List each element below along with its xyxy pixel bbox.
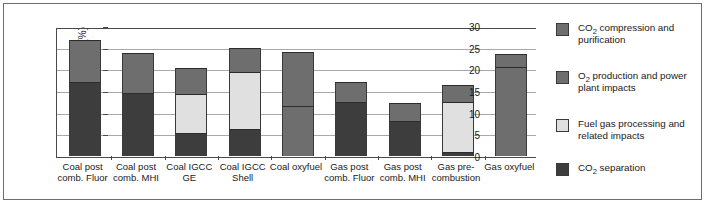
bar-segment[interactable] <box>229 72 261 130</box>
x-tick-mark <box>165 156 166 160</box>
x-axis-label-line: Shell <box>216 172 269 183</box>
x-axis-label: Gas postcomb. MHI <box>376 161 429 183</box>
x-axis-label-line: Gas pre- <box>429 161 482 172</box>
bar-column[interactable] <box>495 26 527 156</box>
x-tick-mark <box>271 156 272 160</box>
y-tick-label-5: 5 <box>458 131 480 141</box>
legend-swatch-co2-compression-and-purification <box>556 23 569 36</box>
y-tick-mark-30 <box>103 27 108 28</box>
x-tick-mark <box>378 156 379 160</box>
x-axis-label-line: comb. MHI <box>109 172 162 183</box>
x-axis-label-line: comb. MHI <box>376 172 429 183</box>
bar-segment[interactable] <box>495 54 527 67</box>
legend-label-o2-production-and-power-plant-impacts: O2 production and powerplant impacts <box>578 70 687 94</box>
x-tick-mark <box>218 156 219 160</box>
bar-segment[interactable] <box>69 40 101 82</box>
x-axis-label: Coal oxyfuel <box>269 161 322 172</box>
legend-label-line: CO2 separation <box>578 162 645 174</box>
legend-item-o2-production-and-power-plant-impacts[interactable]: O2 production and powerplant impacts <box>556 70 696 94</box>
legend-label-line: plant impacts <box>578 82 687 94</box>
plot-area-wrapper: Increase in fuel use (%) 051015202530 <box>56 28 536 158</box>
x-axis-labels: Coal postcomb. FluorCoal postcomb. MHICo… <box>56 161 538 193</box>
chart-screenshot: Increase in fuel use (%) 051015202530 Co… <box>0 0 707 209</box>
bar-segment[interactable] <box>495 67 527 156</box>
bar-column[interactable] <box>335 26 367 156</box>
bar-column[interactable] <box>389 26 421 156</box>
bar-column[interactable] <box>229 26 261 156</box>
legend-swatch-o2-production-and-power-plant-impacts <box>556 71 569 84</box>
x-axis-label-line: Gas oxyfuel <box>483 161 536 172</box>
legend-label-co2-compression-and-purification: CO2 compression andpurification <box>578 22 674 46</box>
legend-label-line: CO2 compression and <box>578 22 674 34</box>
y-tick-label-10: 10 <box>458 110 480 120</box>
bar-column[interactable] <box>122 26 154 156</box>
legend-label-fuel-gas-processing-and-related-impacts: Fuel gas processing andrelated impacts <box>578 118 685 142</box>
y-tick-label-25: 25 <box>458 45 480 55</box>
x-axis-label-line: Coal IGCC <box>163 161 216 172</box>
legend-item-fuel-gas-processing-and-related-impacts[interactable]: Fuel gas processing andrelated impacts <box>556 118 696 142</box>
bar-segment[interactable] <box>122 53 154 93</box>
x-axis-label-line: comb. Fluor <box>56 172 109 183</box>
bar-segment[interactable] <box>175 94 207 133</box>
bar-segment[interactable] <box>282 106 314 156</box>
legend-swatch-fuel-gas-processing-and-related-impacts <box>556 119 569 132</box>
legend-item-co2-compression-and-purification[interactable]: CO2 compression andpurification <box>556 22 696 46</box>
legend-swatch-co2-separation <box>556 163 569 176</box>
bar-segment[interactable] <box>229 129 261 156</box>
x-axis-label-line: Coal post <box>109 161 162 172</box>
x-axis-label: Coal postcomb. MHI <box>109 161 162 183</box>
y-tick-label-20: 20 <box>458 66 480 76</box>
x-tick-mark <box>325 156 326 160</box>
legend-label-line: O2 production and power <box>578 70 687 82</box>
bar-segment[interactable] <box>389 103 421 122</box>
y-tick-label-15: 15 <box>458 88 480 98</box>
bar-segment[interactable] <box>229 48 261 72</box>
bar-column[interactable] <box>69 26 101 156</box>
x-axis-label: Coal IGCCGE <box>163 161 216 183</box>
x-axis-label-line: combustion <box>429 172 482 183</box>
legend-label-co2-separation: CO2 separation <box>578 162 645 174</box>
x-tick-mark <box>111 156 112 160</box>
bar-column[interactable] <box>282 26 314 156</box>
bar-segment[interactable] <box>69 82 101 156</box>
legend-label-line: purification <box>578 34 674 46</box>
x-axis-label-line: comb. Fluor <box>323 172 376 183</box>
legend-item-co2-separation[interactable]: CO2 separation <box>556 162 696 176</box>
x-axis-label-line: Coal oxyfuel <box>269 161 322 172</box>
x-axis-label-line: Gas post <box>376 161 429 172</box>
x-axis-label: Coal IGCCShell <box>216 161 269 183</box>
bar-segment[interactable] <box>335 82 367 102</box>
figure-frame: Increase in fuel use (%) 051015202530 Co… <box>3 3 702 200</box>
x-axis-label-line: Coal IGCC <box>216 161 269 172</box>
legend-label-line: related impacts <box>578 130 685 142</box>
x-tick-mark <box>431 156 432 160</box>
bar-column[interactable] <box>175 26 207 156</box>
bar-segment[interactable] <box>282 52 314 106</box>
y-tick-mark-15 <box>103 92 108 93</box>
y-tick-mark-25 <box>103 49 108 50</box>
y-tick-mark-20 <box>103 70 108 71</box>
y-tick-mark-10 <box>103 114 108 115</box>
x-axis-label: Gas pre-combustion <box>429 161 482 183</box>
x-axis-label-line: Gas post <box>323 161 376 172</box>
y-tick-mark-0 <box>103 157 108 158</box>
bar-segment[interactable] <box>389 121 421 156</box>
chart-legend: CO2 compression andpurificationO2 produc… <box>556 22 696 188</box>
bar-segment[interactable] <box>335 102 367 156</box>
bar-segment[interactable] <box>122 93 154 156</box>
x-axis-label: Coal postcomb. Fluor <box>56 161 109 183</box>
bar-segment[interactable] <box>175 133 207 156</box>
legend-label-line: Fuel gas processing and <box>578 118 685 130</box>
x-axis-label-line: GE <box>163 172 216 183</box>
y-tick-mark-5 <box>103 135 108 136</box>
subscript: 2 <box>593 167 597 176</box>
x-axis-label-line: Coal post <box>56 161 109 172</box>
x-axis-label: Gas postcomb. Fluor <box>323 161 376 183</box>
x-axis-label: Gas oxyfuel <box>483 161 536 172</box>
bar-segment[interactable] <box>175 68 207 94</box>
y-tick-label-30: 30 <box>458 23 480 33</box>
x-tick-mark <box>485 156 486 160</box>
